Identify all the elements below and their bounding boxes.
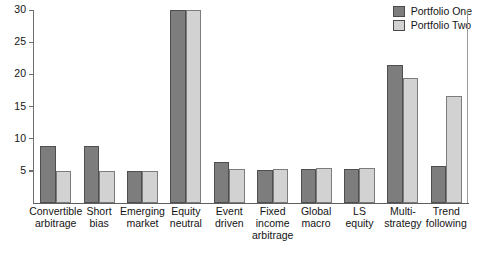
- y-tick-mark: [29, 138, 33, 139]
- bar-portfolio-two: [56, 171, 72, 203]
- bar-group: [251, 10, 294, 203]
- bar-group: [34, 10, 77, 203]
- y-tick-mark: [29, 74, 33, 75]
- y-tick-label: 25: [14, 35, 26, 48]
- bar-portfolio-two: [99, 171, 115, 203]
- x-axis-labels: ConvertiblearbitrageShortbiasEmergingmar…: [34, 205, 468, 255]
- bar-portfolio-one: [214, 162, 230, 203]
- bar-portfolio-two: [446, 96, 462, 203]
- bar-portfolio-one: [344, 169, 360, 203]
- y-tick-label: 5: [20, 164, 26, 177]
- x-axis-label-line: Trend: [419, 205, 474, 217]
- y-tick-label: 20: [14, 67, 26, 80]
- bar-portfolio-one: [301, 169, 317, 203]
- bar-portfolio-one: [84, 146, 100, 203]
- bar-group: [338, 10, 381, 203]
- bar-portfolio-two: [403, 78, 419, 203]
- bar-portfolio-two: [186, 10, 202, 203]
- y-tick-label: 30: [14, 3, 26, 16]
- bar-portfolio-two: [316, 168, 332, 203]
- bar-group: [77, 10, 120, 203]
- bar-groups: [34, 10, 468, 203]
- bar-group: [294, 10, 337, 203]
- bar-group: [164, 10, 207, 203]
- y-tick-mark: [29, 106, 33, 107]
- bar-portfolio-two: [142, 171, 158, 203]
- y-tick-label: 10: [14, 132, 26, 145]
- bar-portfolio-one: [127, 171, 143, 203]
- bar-portfolio-one: [387, 65, 403, 203]
- x-axis-label-line: following: [419, 217, 474, 229]
- bar-chart: Portfolio One Portfolio Two 51015202530 …: [0, 0, 478, 256]
- x-axis-label-line: arbitrage: [245, 229, 300, 241]
- y-tick-mark: [29, 42, 33, 43]
- y-tick-mark: [29, 170, 33, 171]
- bar-portfolio-one: [170, 10, 186, 203]
- bar-group: [381, 10, 424, 203]
- bar-portfolio-one: [257, 170, 273, 203]
- bar-portfolio-two: [273, 169, 289, 203]
- bar-group: [121, 10, 164, 203]
- bar-portfolio-two: [359, 168, 375, 203]
- bar-portfolio-two: [229, 169, 245, 203]
- bar-group: [425, 10, 468, 203]
- y-tick-label: 15: [14, 100, 26, 113]
- bar-portfolio-one: [431, 166, 447, 203]
- bar-group: [208, 10, 251, 203]
- x-axis-label: Trendfollowing: [419, 205, 474, 229]
- bar-portfolio-one: [40, 146, 56, 203]
- y-tick-mark: [29, 10, 33, 11]
